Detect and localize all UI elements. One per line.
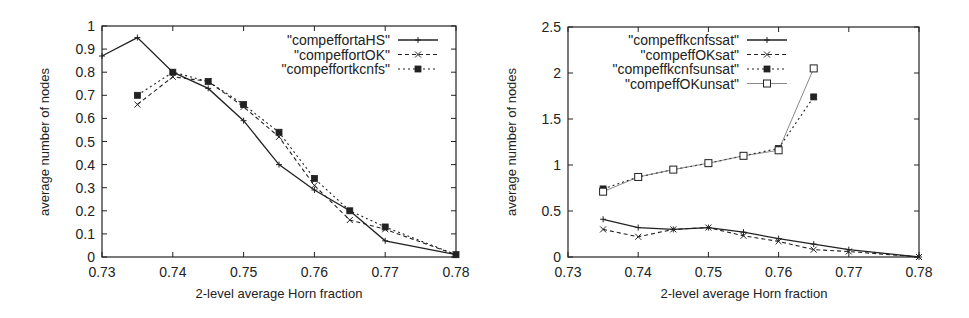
right-chart-svg: 00.511.522.5 0.730.740.750.760.770.78 "c… [480,0,969,318]
right-legend: "compeffkcnfssat""compeffOKsat""compeffk… [613,32,787,92]
x-tick-label: 0.76 [301,264,328,280]
right-y-axis-label: average number of nodes [504,67,519,216]
left-x-axis-label: 2-level average Horn fraction [196,286,363,301]
y-tick-label: 0.2 [76,203,96,219]
y-tick-label: 0.8 [76,64,96,80]
legend-label: "compeffortkcnfs" [282,61,391,77]
x-tick-label: 0.73 [554,264,581,280]
x-tick-label: 0.77 [372,264,399,280]
left-chart: 00.10.20.30.40.50.60.70.80.91 0.730.740.… [0,0,480,318]
left-x-ticks: 0.730.740.750.760.770.78 [88,26,469,280]
y-tick-label: 1 [87,18,95,34]
y-tick-label: 2 [553,65,561,81]
y-tick-label: 0.9 [76,41,96,57]
left-series [99,35,459,258]
x-tick-label: 0.75 [230,264,257,280]
x-tick-label: 0.74 [625,264,652,280]
y-tick-label: 0 [553,249,561,265]
legend-entry: "compeffOKunsat" [625,76,787,92]
y-tick-label: 0.3 [76,180,96,196]
y-tick-label: 0.7 [76,87,96,103]
x-tick-label: 0.78 [905,264,932,280]
y-tick-label: 0.6 [76,110,96,126]
x-tick-label: 0.78 [442,264,469,280]
x-tick-label: 0.73 [88,264,115,280]
right-chart: 00.511.522.5 0.730.740.750.760.770.78 "c… [480,0,969,318]
x-tick-label: 0.76 [765,264,792,280]
x-tick-label: 0.74 [159,264,186,280]
series-line [134,69,459,257]
right-x-axis-label: 2-level average Horn fraction [661,286,828,301]
y-tick-label: 0 [87,249,95,265]
series-line [600,94,817,192]
left-y-axis-label: average number of nodes [37,67,52,216]
y-tick-label: 0.5 [76,134,96,150]
x-tick-label: 0.75 [695,264,722,280]
y-tick-label: 1.5 [542,111,562,127]
series-line [134,74,459,258]
left-chart-svg: 00.10.20.30.40.50.60.70.80.91 0.730.740.… [0,0,480,318]
y-tick-label: 1 [553,157,561,173]
y-tick-label: 2.5 [542,19,562,35]
y-tick-label: 0.5 [542,203,562,219]
left-legend: "compeffortaHS""compeffortOK""compeffort… [282,32,439,77]
legend-label: "compeffOKunsat" [625,76,739,92]
series-line [600,225,922,260]
y-tick-label: 0.4 [76,157,96,173]
series-line [99,35,459,258]
legend-entry: "compeffortkcnfs" [282,61,439,77]
left-plot-frame [102,26,456,257]
x-tick-label: 0.77 [835,264,862,280]
y-tick-label: 0.1 [76,226,96,242]
right-series [600,65,922,260]
